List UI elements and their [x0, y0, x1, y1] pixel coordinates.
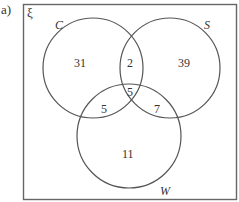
- region-c-s-w: 5: [127, 85, 133, 99]
- set-label-s: S: [204, 18, 210, 32]
- set-label-c: C: [55, 18, 64, 32]
- circle-s: [120, 18, 220, 118]
- region-s-only: 39: [178, 56, 190, 70]
- region-w-only: 11: [122, 147, 134, 161]
- region-c-only: 31: [74, 56, 86, 70]
- circle-w: [77, 84, 181, 188]
- set-label-w: W: [160, 184, 171, 198]
- region-s-and-w: 7: [154, 102, 160, 116]
- region-c-and-s: 2: [127, 56, 133, 70]
- region-c-and-w: 5: [101, 102, 107, 116]
- venn-diagram: ξ C S W 31 39 11 2 5 7 5: [0, 0, 239, 202]
- universal-set-symbol: ξ: [27, 5, 33, 20]
